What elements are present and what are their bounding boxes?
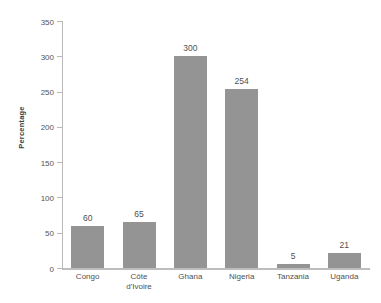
x-axis-category-label: Congo	[76, 272, 100, 282]
bar-group: 60Congo	[71, 21, 104, 268]
bar[interactable]	[123, 222, 156, 268]
x-axis-category-label: Uganda	[330, 272, 358, 282]
bar[interactable]	[71, 226, 104, 268]
x-axis-category-label: Nigeria	[229, 272, 254, 282]
y-axis-tick: 300	[57, 56, 62, 57]
bar-group: 5Tanzania	[277, 21, 310, 268]
x-axis-category-label: Côte d'Ivoire	[126, 272, 152, 291]
bar-value-label: 21	[340, 240, 349, 250]
y-axis-tick-label: 250	[41, 88, 54, 97]
y-axis-title: Percentage	[14, 0, 28, 255]
bar-value-label: 5	[291, 251, 296, 261]
bar-group: 254Nigeria	[225, 21, 258, 268]
y-axis-tick-label: 200	[41, 123, 54, 132]
y-axis-tick-label: 350	[41, 17, 54, 26]
y-axis-tick: 200	[57, 127, 62, 128]
y-axis-tick: 350	[57, 21, 62, 22]
y-axis-title-text: Percentage	[17, 106, 26, 148]
bar-value-label: 254	[235, 76, 249, 86]
y-axis-tick: 50	[57, 233, 62, 234]
bar[interactable]	[225, 89, 258, 268]
y-axis-tick: 250	[57, 92, 62, 93]
bar[interactable]	[277, 264, 310, 268]
bar-value-label: 65	[134, 209, 143, 219]
y-axis-tick-label: 100	[41, 193, 54, 202]
y-axis-tick-label: 50	[45, 229, 54, 238]
y-axis-tick-label: 300	[41, 52, 54, 61]
bar-value-label: 60	[83, 213, 92, 223]
bar-group: 21Uganda	[328, 21, 361, 268]
x-axis-category-label: Tanzania	[277, 272, 309, 282]
bar[interactable]	[328, 253, 361, 268]
bar-value-label: 300	[183, 43, 197, 53]
bar-group: 65Côte d'Ivoire	[123, 21, 156, 268]
y-axis-tick: 100	[57, 197, 62, 198]
y-axis-tick: 0	[57, 268, 62, 269]
y-axis-tick-label: 0	[50, 264, 54, 273]
y-axis-tick: 150	[57, 162, 62, 163]
bar-group: 300Ghana	[174, 21, 207, 268]
plot-area: 050100150200250300350 60Congo65Côte d'Iv…	[62, 21, 370, 268]
y-axis-line	[62, 21, 63, 268]
x-axis-category-label: Ghana	[178, 272, 202, 282]
y-axis-tick-label: 150	[41, 158, 54, 167]
x-axis-line	[62, 268, 370, 270]
bar[interactable]	[174, 56, 207, 268]
bar-chart-figure: Percentage 050100150200250300350 60Congo…	[0, 0, 381, 303]
